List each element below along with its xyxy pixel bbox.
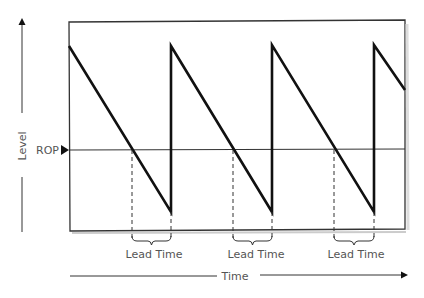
reorder-point-line: [69, 149, 405, 150]
y-axis: Level: [16, 18, 29, 232]
rop-arrow-icon: [61, 145, 69, 155]
lead-time-label-3: Lead Time: [328, 248, 385, 261]
y-axis-label: Level: [16, 131, 29, 160]
lead-time-guides: [132, 150, 374, 238]
inventory-level-line: [69, 45, 405, 212]
x-axis-label: Time: [221, 270, 249, 283]
x-axis: Time: [70, 270, 408, 283]
y-axis-arrow-icon: [19, 18, 26, 25]
lead-time-label-1: Lead Time: [126, 248, 183, 261]
inventory-sawtooth-diagram: Lead Time Lead Time Lead Time ROP Level …: [0, 0, 424, 298]
x-axis-arrow-icon: [401, 272, 408, 279]
rop-label: ROP: [36, 144, 59, 157]
lead-time-label-2: Lead Time: [228, 248, 285, 261]
lead-time-braces: [132, 236, 374, 245]
